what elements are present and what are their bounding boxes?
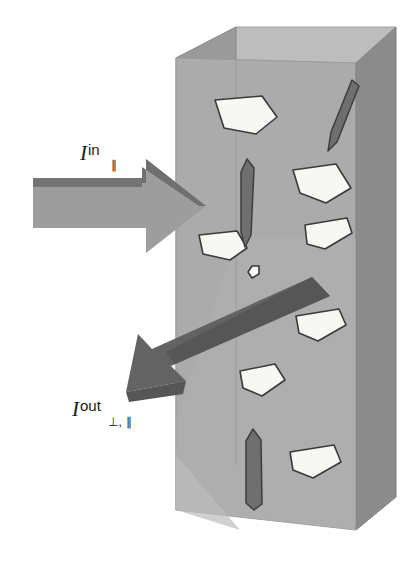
scattering-slab-box	[176, 27, 396, 530]
incident-superscript: in	[88, 141, 100, 158]
incident-symbol: I	[80, 141, 87, 165]
incident-subscript: ∥	[111, 159, 117, 171]
outgoing-intensity-label: Iout ⊥, ∥	[72, 397, 100, 420]
dark-scatterer	[246, 429, 262, 510]
outgoing-subscript: ⊥, ∥	[108, 416, 133, 428]
outgoing-superscript: out	[80, 397, 101, 414]
scattering-diagram	[0, 0, 411, 562]
outgoing-symbol: I	[72, 397, 79, 421]
incident-intensity-label: Iin ∥	[80, 141, 99, 164]
incident-arrow-top-strip	[33, 178, 142, 187]
box-right-face	[356, 27, 396, 530]
